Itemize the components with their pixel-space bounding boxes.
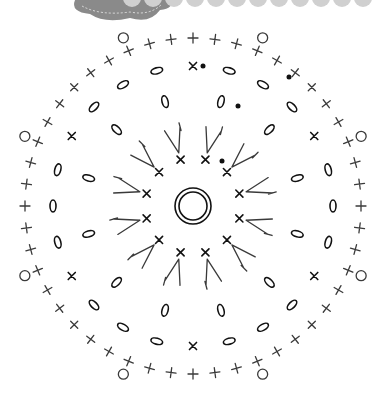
single-crochet-icon <box>232 187 246 201</box>
marker-dot-icon <box>220 159 225 164</box>
treble-crochet-icon <box>131 141 154 167</box>
chain-icon <box>110 123 123 136</box>
single-crochet-icon <box>349 243 361 255</box>
single-crochet-icon <box>53 301 67 315</box>
single-crochet-icon <box>25 156 37 168</box>
header-decoration <box>74 0 372 20</box>
single-crochet-icon <box>41 283 55 297</box>
single-crochet-icon <box>20 201 30 211</box>
single-crochet-icon <box>354 178 365 189</box>
chain-icon <box>82 174 95 183</box>
single-crochet-icon <box>270 54 284 68</box>
single-crochet-icon <box>122 44 135 57</box>
single-crochet-icon <box>198 153 212 167</box>
single-crochet-icon <box>84 332 98 346</box>
single-crochet-icon <box>230 362 242 374</box>
single-crochet-icon <box>25 243 37 255</box>
single-crochet-icon <box>21 222 32 233</box>
single-crochet-icon <box>165 34 176 45</box>
single-crochet-icon <box>53 97 67 111</box>
single-crochet-icon <box>332 283 346 297</box>
single-crochet-icon <box>143 362 155 374</box>
picot-icon <box>356 271 366 281</box>
chain-icon <box>88 299 101 312</box>
single-crochet-icon <box>65 269 79 283</box>
single-crochet-icon <box>65 129 79 143</box>
single-crochet-icon <box>251 355 264 368</box>
picot-icon <box>118 33 128 43</box>
marker-dot-icon <box>201 64 206 69</box>
single-crochet-icon <box>140 187 154 201</box>
picot-icon <box>20 131 30 141</box>
single-crochet-icon <box>251 44 264 57</box>
treble-crochet-icon <box>110 218 140 234</box>
single-crochet-icon <box>143 38 155 50</box>
single-crochet-icon <box>209 34 220 45</box>
treble-crochet-icon <box>205 259 221 289</box>
single-crochet-icon <box>232 211 246 225</box>
marker-dot-icon <box>236 104 241 109</box>
single-crochet-icon <box>140 211 154 225</box>
chain-icon <box>286 299 299 312</box>
chain-icon <box>53 236 62 249</box>
single-crochet-icon <box>188 369 198 379</box>
single-crochet-icon <box>67 318 81 332</box>
single-crochet-icon <box>230 38 242 50</box>
chain-icon <box>223 66 236 75</box>
picot-icon <box>356 131 366 141</box>
chain-icon <box>88 101 101 114</box>
single-crochet-icon <box>270 345 284 359</box>
marker-dot-icon <box>287 75 292 80</box>
single-crochet-icon <box>307 129 321 143</box>
treble-crochet-icon <box>128 245 154 268</box>
single-crochet-icon <box>354 222 365 233</box>
single-crochet-icon <box>122 355 135 368</box>
chain-icon <box>150 66 163 75</box>
chain-icon <box>116 322 129 333</box>
chain-icon <box>256 322 269 333</box>
single-crochet-icon <box>84 66 98 80</box>
crochet-chart <box>0 0 378 398</box>
chain-icon <box>291 174 304 183</box>
chain-icon <box>263 123 276 136</box>
chain-icon <box>256 79 269 90</box>
picot-icon <box>258 369 268 379</box>
single-crochet-icon <box>174 153 188 167</box>
single-crochet-icon <box>41 115 55 129</box>
chain-icon <box>263 276 276 289</box>
single-crochet-icon <box>332 115 346 129</box>
treble-crochet-icon <box>232 144 258 167</box>
treble-crochet-icon <box>246 219 272 235</box>
single-crochet-icon <box>349 156 361 168</box>
single-crochet-icon <box>319 97 333 111</box>
single-crochet-icon <box>305 80 319 94</box>
single-crochet-icon <box>102 54 116 68</box>
picot-icon <box>258 33 268 43</box>
single-crochet-icon <box>31 264 44 277</box>
single-crochet-icon <box>174 245 188 259</box>
chain-icon <box>217 95 226 108</box>
chain-icon <box>53 163 62 176</box>
picot-icon <box>118 369 128 379</box>
single-crochet-icon <box>21 178 32 189</box>
chain-icon <box>291 230 304 239</box>
picot-icon <box>20 271 30 281</box>
chain-icon <box>82 230 95 239</box>
chain-icon <box>116 79 129 90</box>
treble-crochet-icon <box>232 245 255 271</box>
treble-crochet-icon <box>164 259 180 285</box>
single-crochet-icon <box>305 318 319 332</box>
single-crochet-icon <box>198 245 212 259</box>
treble-crochet-icon <box>114 177 140 193</box>
single-crochet-icon <box>188 33 198 43</box>
treble-crochet-icon <box>165 123 181 153</box>
single-crochet-icon <box>307 269 321 283</box>
chain-icon <box>50 200 56 212</box>
single-crochet-icon <box>31 135 44 148</box>
chain-icon <box>110 276 123 289</box>
chain-icon <box>217 304 226 317</box>
chain-icon <box>324 163 333 176</box>
stitch-symbols <box>20 33 366 379</box>
single-crochet-icon <box>102 345 116 359</box>
single-crochet-icon <box>186 59 200 73</box>
